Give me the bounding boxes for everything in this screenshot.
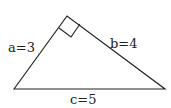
- triangle: [14, 16, 165, 89]
- label-a: a=3: [8, 40, 35, 55]
- triangle-diagram: a=3 b=4 c=5: [0, 0, 171, 108]
- label-c: c=5: [70, 92, 96, 107]
- right-angle-marker: [59, 24, 80, 37]
- label-b: b=4: [110, 36, 138, 51]
